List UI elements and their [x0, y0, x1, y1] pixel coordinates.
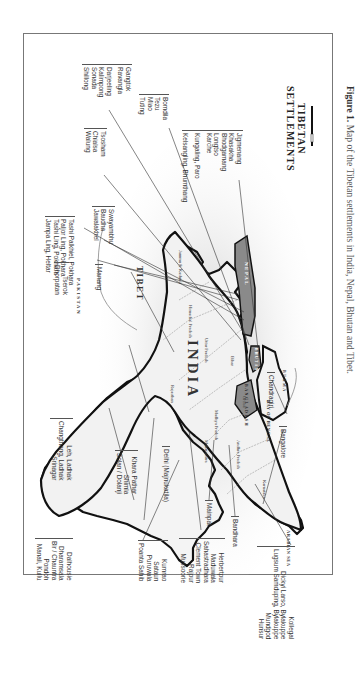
settlement-name: Kollegal	[287, 549, 295, 639]
settlement-name: Hunsur	[257, 549, 265, 639]
settlement-name: Bomdila	[161, 97, 169, 120]
state-label: Karnataka	[262, 480, 267, 499]
settlement-name: Solan / Dolanji	[115, 453, 123, 494]
settlement-name: Sahastradhara	[202, 541, 210, 583]
settlement-name: Puruwala	[145, 543, 153, 581]
settlement-name: Srinagar	[50, 421, 58, 480]
settlement-name: Lugsum Samduping, Bylakuppe	[272, 549, 280, 639]
settlement-group-kumrao: Kumrao Sataun Puruwala Poanta Sahib	[138, 540, 168, 581]
settlement-name: Mussoorie	[179, 541, 187, 583]
settlement-name: Bir / Chauntra	[50, 541, 58, 580]
settlement-group-bomdila: Bomdila Tezu Miao Tuting	[139, 94, 169, 120]
settlement-name: Tserok	[61, 265, 69, 295]
settlement-name: Mainpat	[205, 503, 213, 526]
settlement-name: Changthang, Ladhak	[58, 421, 66, 480]
settlement-group-karnataka: Kollegal Dickyi Larso, Bylakuppe Lugsum …	[257, 546, 295, 639]
settlement-name: Bandhara	[231, 519, 239, 547]
scale-bar	[311, 106, 313, 146]
state-label: Uttar Pradesh	[204, 338, 209, 363]
state-label: Madhya Pradesh	[214, 410, 219, 440]
settlement-group-swayambhu: Swayambhu Baudha Jawalakhel	[92, 206, 115, 244]
settlement-name: Chandragiri	[267, 375, 275, 408]
label-tibet: TIBET	[135, 266, 145, 301]
settlement-name: Mundgod	[265, 549, 273, 639]
settlement-name: Manali, Kullu	[35, 541, 43, 580]
settlement-name: Swayambhu	[107, 209, 115, 244]
state-label: Andhra Pradesh	[236, 440, 241, 469]
state-label: Maharashtra	[204, 440, 209, 463]
map-title-line-2: SETTLEMENTS	[285, 86, 296, 171]
settlement-group-tsosham: Tsosham Chialsa Walung	[84, 128, 107, 157]
settlement-name: Jigmenang	[235, 133, 243, 202]
rotated-figure: Figure 1. Map of the Tibetan settlements…	[0, 0, 359, 678]
settlement-name: Herbertpur	[217, 541, 225, 583]
settlement-group-himachal: Dalhousie Dharamsala Bir / Chauntra Pond…	[35, 538, 73, 580]
settlement-name: Bhodgamang	[220, 133, 228, 202]
label-burma: BURMA	[282, 370, 287, 393]
label-india: INDIA	[184, 340, 201, 399]
state-label: Himachal Pradesh	[188, 305, 193, 338]
settlement-name: Manang	[95, 267, 103, 290]
settlement-name: Clement Town	[195, 541, 203, 583]
settlement-name: Tsosham	[99, 131, 107, 157]
settlement-name: Khasakha	[228, 133, 236, 202]
label-nepal: NEPAL	[244, 262, 249, 286]
settlement-name: Khara Pathar	[130, 453, 138, 494]
settlement-group-bhutan: Jigmenang Khasakha Bhodgamang Longtso Ka…	[182, 130, 243, 202]
settlement-name: Leh, Ladhak	[65, 421, 73, 480]
settlement-group-chandragiri: Chandragiri	[267, 372, 275, 408]
settlement-name: Kungaling, Paro	[193, 133, 201, 202]
settlement-group-gangtok: Gangtok Ravangla Darjeeling Kalimpong So…	[82, 64, 132, 97]
settlement-group-shimla: Khara Pathar Shimla Solan / Dolanji	[115, 450, 138, 494]
state-label: Rajasthan	[170, 385, 175, 403]
settlement-name: Kalimpong	[98, 67, 106, 97]
state-label: Bihar	[230, 356, 235, 366]
settlement-name: Bangalore	[279, 429, 287, 458]
settlement-group-dehradun: Herbertpur Maduwala Sahastradhara Clemen…	[179, 538, 225, 583]
settlement-name: Dharamsala	[58, 541, 66, 580]
settlement-name: Walung	[84, 131, 92, 157]
settlement-group-tserok: Tserok Dhorpatan	[54, 262, 69, 295]
map-title-line-1: TIBETAN	[296, 86, 307, 171]
settlement-group-bangalore: Bangalore	[279, 426, 287, 458]
settlement-name: Tezu	[154, 97, 162, 120]
settlement-group-mainpat: Mainpat	[205, 500, 213, 526]
settlement-name: Shillong	[82, 67, 90, 97]
label-pakistan: PAKISTAN	[76, 278, 81, 315]
settlement-name: Chialsa	[92, 131, 100, 157]
settlement-name: Pondoh	[43, 541, 51, 580]
settlement-group-ladakh: Leh, Ladhak Changthang, Ladhak Srinagar	[50, 418, 73, 480]
settlement-group-bandhara: Bandhara	[231, 516, 239, 547]
label-bhutan: BHUTAN	[254, 348, 258, 372]
settlement-group-delhi: Delhi (Majnukatila)	[162, 446, 170, 502]
settlement-name: Dhorpatan	[54, 265, 62, 295]
settlement-name: Maduwala	[210, 541, 218, 583]
map-title: TIBETAN SETTLEMENTS	[285, 86, 307, 171]
settlement-name: Jawalakhel	[92, 209, 100, 244]
settlement-name: Kelsangling, Bhumthang	[182, 133, 190, 202]
settlement-name: Rajpur	[187, 541, 195, 583]
settlement-name: Ravangla	[117, 67, 125, 97]
settlement-name: Sataun	[153, 543, 161, 581]
settlement-name: Sonada	[90, 67, 98, 97]
settlement-name: Gangtok	[124, 67, 132, 97]
settlement-name: Poanta Sahib	[138, 543, 146, 581]
settlement-name: Jampa Ling, Heltar	[45, 219, 53, 285]
state-label: Orissa	[242, 396, 247, 408]
settlement-name: Shimla	[123, 453, 131, 494]
state-label: Jammu & Kashmir	[178, 250, 183, 284]
settlement-name: Karche	[205, 133, 213, 202]
settlement-name: Delhi (Majnukatila)	[162, 449, 170, 502]
settlement-group-manang: Manang	[95, 264, 103, 290]
settlement-name: Baudha	[100, 209, 108, 244]
settlement-name: Dickyi Larso, Bylakuppe	[280, 549, 288, 639]
settlement-name: Kumrao	[160, 543, 168, 581]
settlement-name: Dalhousie	[65, 541, 73, 580]
settlement-name: Darjeeling	[105, 67, 113, 97]
settlement-name: Longtso	[213, 133, 221, 202]
settlement-name: Tuting	[139, 97, 147, 120]
settlement-name: Miao	[146, 97, 154, 120]
